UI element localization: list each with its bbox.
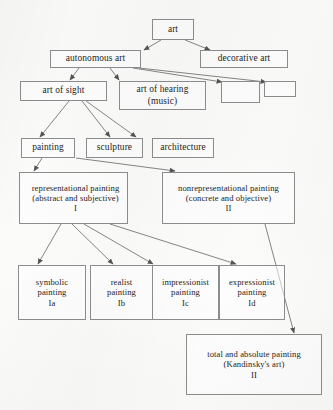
node-expressionist-painting[interactable]: expressionist painting Id <box>219 265 285 320</box>
node-decorative-art[interactable]: decorative art <box>200 50 288 68</box>
node-sculpture-label: sculpture <box>95 142 134 153</box>
edge-representational-expressionist <box>110 224 236 264</box>
node-architecture-label: architecture <box>158 142 207 153</box>
node-art-of-sight-label: art of sight <box>41 85 87 96</box>
node-art-of-hearing-label: art of hearing (music) <box>135 84 191 106</box>
node-symbolic-painting[interactable]: symbolic painting Ia <box>18 265 86 320</box>
node-nonrepresentational-painting-label: nonrepresentational painting (concrete a… <box>176 183 281 213</box>
node-representational-painting[interactable]: representational painting (abstract and … <box>19 172 128 224</box>
node-total-absolute-painting[interactable]: total and absolute painting (Kandinsky's… <box>186 334 322 395</box>
node-painting-label: painting <box>30 142 66 153</box>
node-architecture[interactable]: architecture <box>152 138 214 158</box>
node-painting[interactable]: painting <box>21 138 75 158</box>
node-impressionist-painting-label: impressionist painting Ic <box>160 277 211 307</box>
edge-sight-painting <box>40 101 69 137</box>
node-symbolic-painting-label: symbolic painting Ia <box>34 277 70 307</box>
node-empty-box-1[interactable] <box>221 81 260 103</box>
node-autonomous-art[interactable]: autonomous art <box>50 50 141 68</box>
node-impressionist-painting[interactable]: impressionist painting Ic <box>152 265 219 320</box>
diagram-canvas: art autonomous art decorative art art of… <box>0 0 333 410</box>
node-art-label: art <box>166 24 180 35</box>
node-realist-painting[interactable]: realist painting Ib <box>90 265 153 320</box>
node-sculpture[interactable]: sculpture <box>86 138 143 158</box>
node-nonrepresentational-painting[interactable]: nonrepresentational painting (concrete a… <box>162 172 295 224</box>
edge-art-decorative <box>185 40 210 50</box>
edge-sight-sculpture <box>82 101 110 137</box>
node-realist-painting-label: realist painting Ib <box>105 277 138 307</box>
edge-painting-nonrepresentational <box>76 158 175 171</box>
node-art-of-hearing[interactable]: art of hearing (music) <box>119 81 206 110</box>
node-decorative-art-label: decorative art <box>216 53 273 64</box>
edge-autonomous-empty2 <box>139 68 266 82</box>
edge-autonomous-sight <box>70 68 79 80</box>
node-empty-box-2[interactable] <box>264 81 296 97</box>
node-representational-painting-label: representational painting (abstract and … <box>24 183 127 213</box>
node-expressionist-painting-label: expressionist painting Id <box>227 277 277 307</box>
edge-representational-symbolic <box>38 224 61 264</box>
edge-art-autonomous <box>144 40 161 50</box>
edge-autonomous-hearing <box>110 68 119 80</box>
edge-representational-impressionist <box>84 224 153 264</box>
node-autonomous-art-label: autonomous art <box>64 53 127 64</box>
edge-autonomous-empty1 <box>133 68 222 82</box>
node-art-of-sight[interactable]: art of sight <box>20 81 107 101</box>
node-total-absolute-painting-label: total and absolute painting (Kandinsky's… <box>205 349 303 379</box>
node-art[interactable]: art <box>152 19 194 40</box>
edge-painting-representational <box>34 158 42 171</box>
edge-representational-realist <box>72 224 113 264</box>
